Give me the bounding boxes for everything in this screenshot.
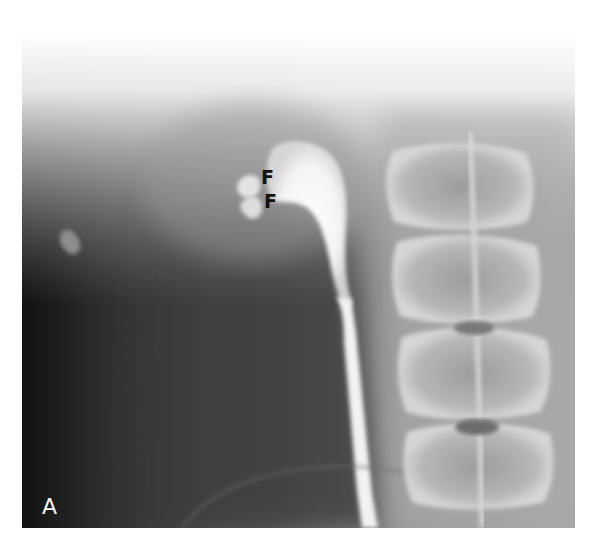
radiograph-panel: F F A	[22, 32, 575, 528]
panel-label: A	[42, 496, 57, 518]
annotation-f-upper: F	[261, 168, 274, 187]
radiograph-image	[22, 32, 575, 528]
annotation-f-lower: F	[264, 192, 277, 211]
